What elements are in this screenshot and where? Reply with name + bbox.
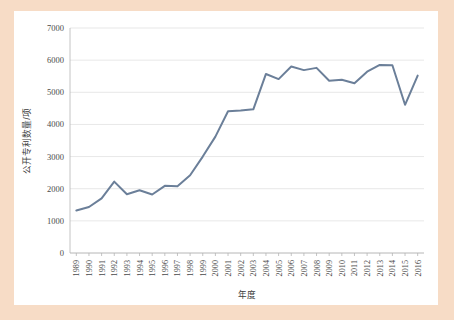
x-tick-label: 2013 [376, 260, 385, 276]
x-tick-label: 1995 [148, 260, 157, 276]
chart-plot-card: 01000200030004000500060007000 1989199019… [14, 11, 438, 305]
y-tick-label: 6000 [47, 55, 64, 65]
x-tick-label: 2006 [287, 260, 296, 276]
gridlines-group [70, 28, 424, 253]
y-tick-label: 1000 [47, 216, 64, 226]
x-tick-label: 2008 [313, 260, 322, 276]
x-tick-label: 2010 [338, 260, 347, 276]
x-tick-label: 2007 [300, 260, 309, 276]
x-tick-label: 2009 [325, 260, 334, 276]
x-tick-label: 2011 [350, 260, 359, 276]
y-axis-title: 公开专利数量/项 [21, 108, 32, 173]
x-tick-label: 1996 [161, 260, 170, 276]
y-tick-label: 2000 [47, 184, 64, 194]
x-tick-label: 2001 [224, 260, 233, 276]
y-tick-label: 3000 [47, 152, 64, 162]
x-tick-label: 1994 [136, 260, 145, 276]
y-tick-label: 5000 [47, 87, 64, 97]
x-tick-label: 1998 [186, 260, 195, 276]
y-axis-tick-labels: 01000200030004000500060007000 [47, 23, 64, 258]
x-tick-label: 1990 [85, 260, 94, 276]
x-tick-label: 2005 [275, 260, 284, 276]
y-tick-label: 4000 [47, 119, 64, 129]
y-tick-label: 0 [60, 248, 64, 258]
x-tick-label: 2015 [401, 260, 410, 276]
x-tick-label: 1991 [98, 260, 107, 276]
y-tick-label: 7000 [47, 23, 64, 33]
x-tick-label: 2012 [363, 260, 372, 276]
figure-frame: 01000200030004000500060007000 1989199019… [0, 0, 454, 320]
x-tick-label: 1992 [110, 260, 119, 276]
x-axis-title: 年度 [238, 289, 256, 300]
x-tick-label: 1989 [72, 260, 81, 276]
x-tick-label: 2003 [249, 260, 258, 276]
x-tick-label: 2004 [262, 260, 271, 276]
x-tick-label: 2016 [414, 260, 423, 276]
x-tick-label: 1999 [199, 260, 208, 276]
x-axis-tick-labels: 1989199019911992199319941995199619971998… [72, 260, 422, 276]
x-tick-label: 2000 [211, 260, 220, 276]
x-tick-label: 1993 [123, 260, 132, 276]
x-tick-label: 1997 [173, 260, 182, 276]
x-axis-tick-marks [76, 253, 417, 256]
x-tick-label: 2014 [388, 260, 397, 276]
line-chart: 01000200030004000500060007000 1989199019… [14, 11, 438, 305]
x-tick-label: 2002 [237, 260, 246, 276]
